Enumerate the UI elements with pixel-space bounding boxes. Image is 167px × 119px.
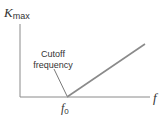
kmax-line <box>67 44 145 97</box>
annotation-line1: Cutoff <box>41 49 65 59</box>
kmax-vs-frequency-diagram: Kmax Cutoff frequency f0 f <box>0 0 167 119</box>
x-axis-label: f <box>153 90 159 105</box>
y-axis-subscript: max <box>13 11 31 21</box>
y-axis-label: Kmax <box>3 5 30 21</box>
cutoff-subscript: 0 <box>64 107 69 116</box>
annotation-pointer <box>54 69 67 96</box>
annotation-line2: frequency <box>33 60 73 70</box>
cutoff-frequency-label: f0 <box>61 101 69 116</box>
